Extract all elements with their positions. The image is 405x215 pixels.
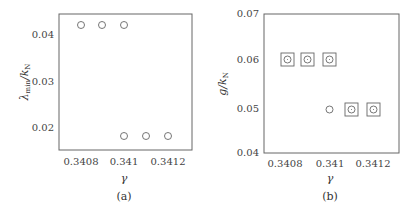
panel-label-b: (b) — [322, 190, 338, 203]
panel-b: 0.07 0.06 0.05 0.04 0.3408 0.341 0.3412 … — [216, 8, 399, 203]
y-tick-label: 0.07 — [237, 8, 259, 19]
figure: 0.04 0.03 0.02 0.3408 0.341 0.3412 γ λmi… — [0, 0, 405, 215]
y-axis-label: λmin/kN — [18, 64, 32, 102]
y-tick-label: 0.03 — [32, 76, 54, 87]
data-point — [326, 106, 333, 113]
markers-a — [78, 22, 172, 140]
svg-text:λmin/kN: λmin/kN — [18, 64, 32, 102]
x-axis-label: γ — [327, 172, 334, 185]
x-tick-label: 0.3408 — [64, 156, 99, 167]
data-point — [99, 22, 106, 29]
data-point — [121, 133, 128, 140]
plot-area-a — [59, 14, 192, 150]
y-tick-label: 0.05 — [237, 103, 259, 114]
panel-a: 0.04 0.03 0.02 0.3408 0.341 0.3412 γ λmi… — [18, 14, 192, 203]
svg-text:g/kN: g/kN — [216, 72, 230, 96]
plot-area-b — [264, 14, 399, 153]
x-tick-label: 0.3412 — [356, 158, 391, 169]
data-point — [78, 22, 85, 29]
y-axis-label: g/kN — [216, 72, 230, 96]
x-axis-label: γ — [121, 172, 128, 185]
marker-centers — [287, 59, 374, 110]
data-point — [121, 22, 128, 29]
x-tick-label: 0.3408 — [268, 158, 303, 169]
y-tick-label: 0.06 — [237, 54, 259, 65]
y-tick-label: 0.04 — [237, 147, 259, 158]
x-tick-label: 0.3412 — [151, 156, 186, 167]
y-tick-label: 0.02 — [32, 122, 54, 133]
panel-label-a: (a) — [116, 190, 131, 203]
x-tick-label: 0.341 — [110, 156, 139, 167]
markers-b — [281, 53, 380, 116]
data-point — [165, 133, 172, 140]
y-tick-label: 0.04 — [32, 29, 54, 40]
x-tick-label: 0.341 — [316, 158, 345, 169]
data-point — [143, 133, 150, 140]
